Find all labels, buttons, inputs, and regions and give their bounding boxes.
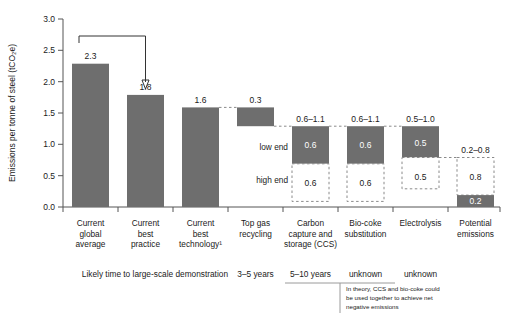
y-tick-label: 3.0 — [43, 14, 55, 24]
bar-top-gas-recycling — [237, 107, 274, 126]
category-label-potential-emissions-l2: emissions — [457, 229, 494, 239]
category-label-current-best-technology: Current — [187, 218, 215, 228]
footer-value-top-gas-recycling: 3–5 years — [237, 269, 273, 279]
bar-value-ccs-low-end: 0.6 — [305, 140, 317, 150]
footer-note-line-2: be used together to achieve net — [346, 294, 433, 301]
footer-note-line-3: negative emissions — [346, 303, 399, 310]
y-tick-label: 1.5 — [43, 108, 55, 118]
bar-range-ccs: 0.6–1.1 — [296, 114, 325, 124]
category-label-current-best-practice: Current — [132, 218, 160, 228]
bar-value-biocoke-low-end: 0.6 — [360, 140, 372, 150]
category-label-ccs-l3: storage (CCS) — [284, 239, 337, 249]
footer-value-ccs: 5–10 years — [290, 269, 331, 279]
y-tick-label: 0.5 — [43, 171, 55, 181]
footer-row-label: Likely time to large-scale demonstration — [82, 269, 229, 279]
bar-range-electrolysis: 0.5–1.0 — [406, 114, 435, 124]
bar-value-electrolysis-high-end: 0.5 — [415, 172, 427, 182]
chart-svg: Emissions per tonne of steel (tCO₂e) 0.0… — [0, 0, 508, 328]
category-label-current-best-technology-l2: best — [193, 229, 209, 239]
y-tick-label: 2.5 — [43, 45, 55, 55]
bar-value-ccs-high-end: 0.6 — [305, 178, 317, 188]
y-tick-label: 0.0 — [43, 202, 55, 212]
category-label-current-best-practice-l2: best — [138, 229, 154, 239]
x-axis-category-labels: Current global average Current best prac… — [76, 218, 494, 249]
y-tick-label: 1.0 — [43, 139, 55, 149]
category-label-biocoke-l2: substitution — [345, 229, 387, 239]
bar-range-potential: 0.2–0.8 — [461, 145, 490, 155]
row-label-low-end: low end — [259, 142, 288, 152]
category-label-biocoke: Bio-coke — [349, 218, 382, 228]
bar-value-biocoke-high-end: 0.6 — [360, 178, 372, 188]
category-label-current-global-average-l2: global — [79, 229, 101, 239]
bar-value-potential-emissions: 0.2 — [470, 196, 482, 206]
footer-value-biocoke: unknown — [349, 269, 383, 279]
bar-current-global-average — [72, 64, 109, 207]
category-label-electrolysis: Electrolysis — [400, 218, 442, 228]
bar-value-potential-high-end: 0.8 — [470, 172, 482, 182]
row-label-high-end: high end — [256, 175, 288, 185]
category-label-current-best-practice-l3: practice — [131, 239, 160, 249]
category-label-ccs: Carbon — [297, 218, 325, 228]
bar-value-current-best-technology: 1.6 — [195, 95, 207, 105]
y-axis-ticks: 0.0 0.5 1.0 1.5 2.0 2.5 3.0 — [43, 14, 63, 212]
emissions-bar-chart: Emissions per tonne of steel (tCO₂e) 0.0… — [0, 0, 508, 328]
bar-value-current-global-average: 2.3 — [85, 51, 97, 61]
category-label-current-global-average-l3: average — [76, 239, 106, 249]
x-axis-ticks — [63, 207, 500, 212]
bar-value-current-best-practice: 1.8 — [140, 82, 152, 92]
category-label-ccs-l2: capture and — [289, 229, 333, 239]
category-label-top-gas-recycling: Top gas — [241, 218, 270, 228]
bar-range-biocoke: 0.6–1.1 — [351, 114, 380, 124]
category-label-potential-emissions: Potential — [459, 218, 491, 228]
bar-current-best-technology — [182, 107, 219, 207]
y-tick-label: 2.0 — [43, 77, 55, 87]
category-label-current-global-average: Current — [77, 218, 105, 228]
y-axis-title: Emissions per tonne of steel (tCO₂e) — [7, 44, 17, 182]
footer-note-line-1: In theory, CCS and bio-coke could — [346, 285, 440, 292]
category-label-top-gas-recycling-l2: recycling — [239, 229, 272, 239]
bar-current-best-practice — [127, 95, 164, 207]
bar-value-top-gas-recycling: 0.3 — [250, 95, 262, 105]
bar-value-electrolysis-low-end: 0.5 — [415, 138, 427, 148]
footer-value-electrolysis: unknown — [404, 269, 438, 279]
category-label-current-best-technology-l3: technology¹ — [179, 239, 222, 249]
